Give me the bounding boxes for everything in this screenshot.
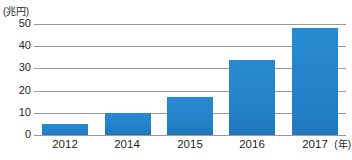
bar-fill [167,97,213,135]
bar-2015 [167,97,213,135]
x-axis-tick-label: 2014 [96,137,158,151]
x-axis-unit-label: (年) [334,138,351,152]
bar-chart: (兆円) 01020304050 20122014201520162017 (年… [0,0,352,160]
y-axis-tick-label: 50 [3,18,31,29]
bar-2014 [105,113,151,135]
y-axis-tick-labels: 01020304050 [0,24,31,135]
x-axis-tick-label: 2016 [221,137,283,151]
bar-2017 [292,28,338,135]
y-axis-tick-label: 10 [3,107,31,118]
y-axis-tick-label: 30 [3,62,31,73]
bar-fill [105,113,151,135]
x-axis-tick-label: 2012 [34,137,96,151]
bars [34,24,346,135]
bar-fill [292,28,338,135]
gridline [34,135,346,136]
plot-area [34,24,346,135]
bar-2012 [42,124,88,135]
y-axis-tick-label: 40 [3,40,31,51]
y-axis-tick-label: 0 [3,129,31,140]
bar-fill [229,60,275,135]
x-axis-tick-labels: 20122014201520162017 [34,137,346,157]
x-axis-tick-label: 2015 [159,137,221,151]
y-axis-tick-label: 20 [3,85,31,96]
bar-2016 [229,60,275,135]
bar-fill [42,124,88,135]
